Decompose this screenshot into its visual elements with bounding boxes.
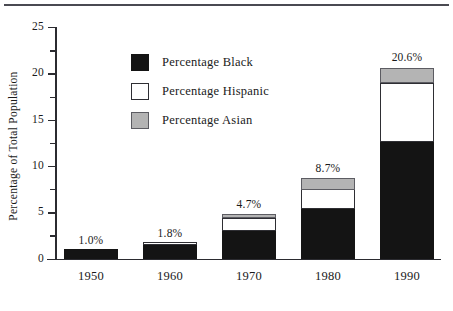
- bar-segment-hispanic-1970[interactable]: [222, 218, 276, 231]
- y-axis-label-5: 5: [2, 206, 44, 218]
- x-axis-label-1960: 1960: [131, 270, 209, 283]
- bar-total-label-1950: 1.0%: [51, 234, 131, 246]
- legend-label-asian: Percentage Asian: [162, 114, 252, 127]
- x-axis-line: [47, 259, 441, 261]
- y-axis-label-25: 25: [2, 21, 44, 33]
- x-axis-label-1970: 1970: [210, 270, 288, 283]
- y-label-15-wrap: 15: [0, 114, 44, 126]
- y-label-20-wrap: 20: [0, 67, 44, 79]
- bar-total-label-1960: 1.8%: [130, 227, 210, 239]
- y-axis-label-20: 20: [2, 67, 44, 79]
- legend-swatch-hispanic-icon: [131, 83, 149, 100]
- bar-segment-asian-1970[interactable]: [222, 214, 276, 218]
- bar-segment-black-1990[interactable]: [380, 142, 434, 259]
- legend-item-hispanic[interactable]: Percentage Hispanic: [131, 81, 269, 101]
- y-axis-label-10: 10: [2, 160, 44, 172]
- legend-swatch-black-icon: [131, 54, 149, 71]
- legend-item-black[interactable]: Percentage Black: [131, 52, 253, 72]
- y-tick-minor-22-5: [50, 50, 56, 51]
- legend-label-black: Percentage Black: [162, 56, 253, 69]
- y-label-10-wrap: 10: [0, 160, 44, 172]
- bar-total-label-1970: 4.7%: [209, 198, 289, 210]
- bar-segment-black-1970[interactable]: [222, 231, 276, 259]
- y-axis-label-0: 0: [2, 253, 44, 265]
- chart-plot-area: Percentage of Total Population 25 20 15 …: [0, 0, 453, 311]
- bar-segment-asian-1990[interactable]: [380, 68, 434, 83]
- y-tick-minor-17-5: [50, 97, 56, 98]
- legend-item-asian[interactable]: Percentage Asian: [131, 110, 252, 130]
- bar-total-label-1990: 20.6%: [367, 51, 447, 63]
- y-tick-minor-7-5: [50, 189, 56, 190]
- bar-segment-hispanic-1960[interactable]: [143, 242, 197, 245]
- x-axis-label-1980: 1980: [289, 270, 367, 283]
- y-tick-5: [48, 212, 56, 213]
- y-axis-label-15: 15: [2, 114, 44, 126]
- legend-label-hispanic: Percentage Hispanic: [162, 85, 269, 98]
- y-label-25-wrap: 25: [0, 21, 44, 33]
- bar-segment-black-1960[interactable]: [143, 244, 197, 259]
- x-axis-label-1950: 1950: [52, 270, 130, 283]
- bar-segment-hispanic-1980[interactable]: [301, 189, 355, 209]
- bar-segment-black-1950[interactable]: [64, 249, 118, 258]
- bar-segment-hispanic-1990[interactable]: [380, 83, 434, 143]
- y-label-5-wrap: 5: [0, 206, 44, 218]
- y-tick-10: [48, 166, 56, 167]
- y-tick-20: [48, 73, 56, 74]
- legend-swatch-asian-icon: [131, 112, 149, 129]
- y-tick-0: [48, 259, 56, 260]
- y-tick-25: [48, 27, 56, 28]
- bar-total-label-1980: 8.7%: [288, 162, 368, 174]
- y-label-0-wrap: 0: [0, 253, 44, 265]
- y-tick-minor-12-5: [50, 143, 56, 144]
- x-axis-label-1990: 1990: [368, 270, 446, 283]
- y-tick-15: [48, 120, 56, 121]
- bar-segment-black-1980[interactable]: [301, 209, 355, 259]
- figure: Percentage of Total Population 25 20 15 …: [0, 0, 453, 311]
- bar-segment-asian-1980[interactable]: [301, 178, 355, 190]
